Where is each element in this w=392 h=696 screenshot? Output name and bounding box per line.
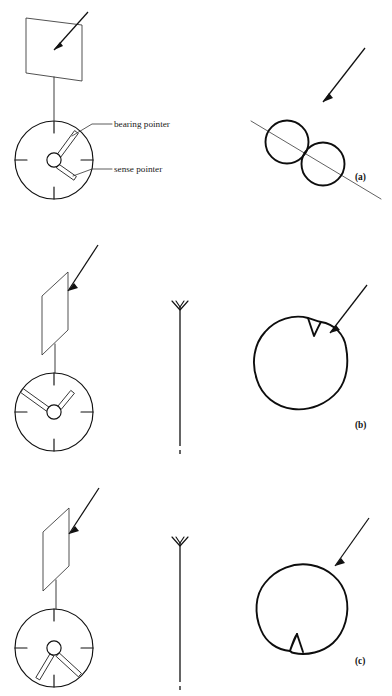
figure-canvas: bearing pointer sense pointer (a) [0,0,392,696]
incident-arrow-pattern-b [330,285,367,333]
incident-arrow-pattern-a [323,48,365,102]
panel-label-a: (a) [355,172,366,183]
compass-dial-a [15,121,93,199]
row-b-group: (b) [15,245,367,456]
figure-page: bearing pointer sense pointer (a) [0,0,392,696]
panel-label-b: (b) [355,420,366,431]
row-c-group: (c) [15,488,369,692]
loop-antenna-c [43,508,69,619]
pattern-figure-eight-a [251,121,381,200]
row-a-group: bearing pointer sense pointer (a) [15,12,381,199]
compass-dial-b [15,373,93,451]
incident-arrow-pattern-c [335,518,369,566]
incident-arrow-b [68,245,98,291]
sense-antenna-b [172,301,188,456]
loop-antenna-a [26,18,82,120]
compass-dial-c [15,609,93,687]
bearing-pointer-label: bearing pointer [114,119,170,129]
sense-antenna-c [172,537,188,692]
callout-bearing-pointer: bearing pointer [72,119,170,136]
incident-arrow-c [69,488,99,534]
panel-label-c: (c) [355,656,365,667]
loop-antenna-b [42,272,68,383]
pattern-cardioid-c [256,564,347,654]
sense-pointer-label: sense pointer [114,164,162,174]
